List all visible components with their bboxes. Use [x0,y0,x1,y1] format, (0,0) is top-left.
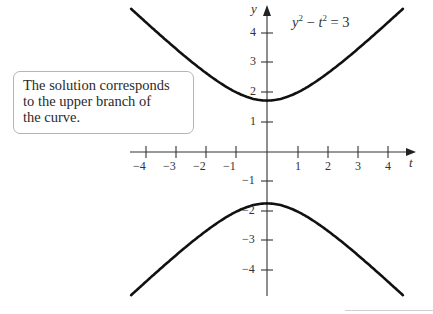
callout-line: to the upper branch of [23,93,185,109]
x-tick-label: −3 [163,159,176,174]
x-tick-label: 4 [385,159,391,174]
y-tick-label: 3 [250,54,256,69]
equation-label: y2 − t2 = 3 [292,13,350,31]
callout-line: The solution corresponds [23,77,185,93]
y-tick-label: 2 [250,84,256,99]
x-tick-label: 3 [355,159,361,174]
y-tick-label: −2 [242,203,255,218]
y-tick-label: 1 [250,114,256,129]
eq-op: − [303,14,318,30]
y-tick-label: 4 [250,25,256,40]
x-tick-label: 1 [295,159,301,174]
x-tick-label: −2 [193,159,206,174]
x-tick-label: −4 [133,159,146,174]
y-tick-label: −3 [242,232,255,247]
y-tick-label: −1 [242,173,255,188]
y-tick-label: −4 [242,262,255,277]
t-axis [130,146,410,158]
callout-line: the curve. [23,109,185,125]
eq-rhs: = 3 [327,14,350,30]
y-axis-label: y [251,1,257,17]
solution-callout: The solution corresponds to the upper br… [13,71,194,134]
x-tick-label: −1 [223,159,236,174]
y-axis [261,12,273,296]
t-axis-label: t [409,155,413,171]
y-axis-arrow-icon [263,5,271,16]
hyperbola-plot [0,0,433,314]
x-tick-label: 2 [325,159,331,174]
divider [345,310,433,311]
